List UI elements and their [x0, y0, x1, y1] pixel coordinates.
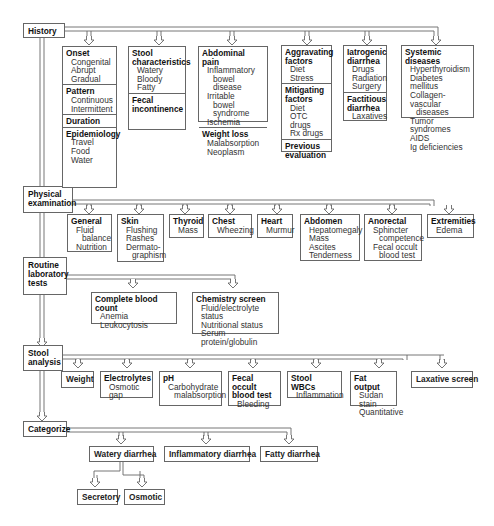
iatrogenic-diarrhea-section: Iatrogenic diarrhea Drugs Radiation Surg…	[344, 48, 386, 92]
systemic-diseases-title: Systemic diseases	[405, 48, 470, 65]
stool-laxative-screen-box: Laxative screen	[411, 371, 473, 388]
physical-heart-box: Heart Murmur	[257, 214, 293, 238]
history-iatrogenic-diarrhea-box: Iatrogenic diarrhea Drugs Radiation Surg…	[343, 45, 387, 121]
routine-cbc-box: Complete blood count Anemia Leukocytosis	[91, 292, 177, 324]
stage-history: History	[23, 23, 65, 38]
stool-fat-output-box: Fat output Sudan stain Quantitative	[350, 371, 397, 406]
thyroid-item: Mass	[173, 226, 200, 235]
stage-physical-examination: Physical examination	[23, 186, 73, 213]
fobt-title: Fecal occult	[232, 374, 277, 391]
fat-output-item: Quantitative	[354, 408, 393, 417]
abdominal-pain-item: bowel disease	[202, 75, 264, 92]
fecal-incontinence-title: incontinence	[132, 105, 182, 114]
mitigating-factors-section: Mitigating factors Diet OTC drugs Rx dru…	[282, 83, 331, 139]
stool-char-item: Fatty	[132, 83, 182, 92]
systemic-item: Collagen-vascular	[405, 91, 470, 108]
onset-item: Gradual	[66, 75, 113, 84]
category-inflammatory-diarrhea: Inflammatory diarrhea	[164, 446, 250, 462]
previous-evaluation-section: Previous evaluation	[282, 139, 331, 160]
weight-loss-section: Weight loss Malabsorption Neoplasm	[199, 127, 267, 157]
routine-chemistry-screen-box: Chemistry screen Fluid/electrolyte statu…	[192, 292, 279, 334]
stool-wbcs-item: Inflammation	[291, 391, 338, 400]
fat-output-item: Sudan stain	[354, 391, 393, 408]
cbc-title: Complete blood count	[95, 295, 173, 312]
physical-general-box: General Fluid balance Nutrition	[67, 214, 112, 252]
duration-section: Duration	[63, 114, 116, 127]
onset-section: Onset Congenital Abrupt Gradual	[63, 49, 116, 84]
secretory-label: Secretory	[82, 492, 120, 502]
iatrogenic-item: Surgery	[347, 82, 383, 91]
systemic-item: Diabetes mellitus	[405, 74, 470, 91]
anorectal-item: blood test	[368, 251, 418, 260]
weight-loss-item: Neoplasm	[202, 148, 264, 157]
abdominal-pain-title: Abdominal pain	[202, 49, 264, 66]
inflammatory-diarrhea-label: Inflammatory diarrhea	[169, 449, 256, 459]
category-watery-diarrhea: Watery diarrhea	[89, 446, 154, 462]
mitigating-item: OTC drugs	[285, 112, 328, 129]
stool-wbcs-box: Stool WBCs Inflammation	[287, 371, 342, 398]
pattern-section: Pattern Continuous Intermittent	[63, 84, 116, 114]
abdominal-pain-item: Ischemia	[202, 118, 264, 127]
stage-routine-laboratory-tests: Routine laboratory tests	[23, 257, 67, 295]
physical-extremities-box: Extremities Edema	[427, 214, 474, 238]
fatty-diarrhea-label: Fatty diarrhea	[265, 449, 320, 459]
physical-chest-box: Chest Wheezing	[208, 214, 252, 238]
stage-label-line: tests	[28, 279, 62, 288]
ph-item: malabsorption	[163, 391, 218, 400]
systemic-diseases-section: Systemic diseases Hyperthyroidism Diabet…	[402, 48, 473, 152]
factitious-diarrhea-section: Factitious diarrhea Laxatives	[344, 92, 386, 122]
factitious-item: Laxatives	[347, 112, 383, 121]
category-osmotic: Osmotic	[124, 489, 165, 505]
electrolytes-item: Osmotic gap	[104, 383, 149, 400]
stool-characteristics-section: Stool characteristics Watery Bloody Fatt…	[129, 49, 185, 93]
stage-categorize-label: Categorize	[28, 424, 70, 434]
physical-thyroid-box: Thyroid Mass	[169, 214, 204, 238]
skin-item: graphism	[121, 251, 160, 260]
watery-diarrhea-label: Watery diarrhea	[94, 449, 156, 459]
history-aggravating-factors-box: Aggravating factors Diet Stress Mitigati…	[281, 45, 332, 152]
stool-fecal-occult-blood-box: Fecal occult blood test Bleeding	[228, 371, 281, 406]
category-secretory: Secretory	[77, 489, 118, 505]
abdominal-pain-section: Abdominal pain Inflammatory bowel diseas…	[199, 49, 267, 127]
history-stool-characteristics-box: Stool characteristics Watery Bloody Fatt…	[128, 46, 186, 130]
category-fatty-diarrhea: Fatty diarrhea	[260, 446, 318, 462]
chemistry-item: Fluid/electrolyte status	[196, 304, 275, 321]
physical-anorectal-box: Anorectal Sphincter competence Fecal occ…	[364, 214, 422, 261]
history-abdominal-pain-box: Abdominal pain Inflammatory bowel diseas…	[198, 46, 268, 122]
stool-ph-box: pH Carbohydrate malabsorption	[159, 371, 222, 406]
previous-evaluation-title: evaluation	[285, 151, 328, 160]
fecal-incontinence-section: Fecal incontinence	[129, 93, 185, 114]
physical-skin-box: Skin Flushing Rashes Dermato- graphism	[117, 214, 164, 262]
extremities-item: Edema	[431, 226, 470, 235]
diarrhea-evaluation-flowchart: History Physical examination Routine lab…	[0, 0, 494, 526]
stage-label-line: examination	[28, 199, 68, 208]
stage-categorize: Categorize	[23, 421, 67, 437]
aggravating-factors-section: Aggravating factors Diet Stress	[282, 48, 331, 83]
cbc-item: Leukocytosis	[95, 321, 173, 330]
fat-output-title: Fat output	[354, 374, 393, 391]
abdomen-item: Tenderness	[304, 251, 356, 260]
stool-electrolytes-box: Electrolytes Osmotic gap	[100, 371, 153, 398]
history-systemic-diseases-box: Systemic diseases Hyperthyroidism Diabet…	[401, 45, 474, 118]
mitigating-item: Rx drugs	[285, 129, 328, 138]
weight-title: Weight	[66, 374, 94, 384]
epidemiology-item: Water	[66, 156, 113, 165]
chemistry-item: Serum protein/globulin	[196, 329, 275, 346]
general-item: Nutrition	[71, 243, 108, 252]
systemic-item: Tumor syndromes	[405, 117, 470, 134]
heart-item: Murmur	[261, 226, 289, 235]
history-onset-box: Onset Congenital Abrupt Gradual Pattern …	[62, 46, 117, 188]
abdominal-pain-item: bowel syndrome	[202, 101, 264, 118]
fobt-item: Bleeding	[232, 400, 277, 409]
systemic-item: Ig deficiencies	[405, 143, 470, 152]
chest-item: Wheezing	[212, 226, 248, 235]
stool-wbcs-title: Stool WBCs	[291, 374, 338, 391]
laxative-screen-title: Laxative screen	[416, 374, 478, 384]
stool-weight-box: Weight	[61, 371, 94, 388]
stage-history-label: History	[28, 26, 57, 36]
osmotic-label: Osmotic	[129, 492, 162, 502]
physical-abdomen-box: Abdomen Hepatomegaly Mass Ascites Tender…	[300, 214, 360, 261]
stage-stool-analysis: Stool analysis	[23, 345, 63, 371]
duration-title: Duration	[66, 117, 113, 126]
aggravating-item: Stress	[285, 74, 328, 83]
